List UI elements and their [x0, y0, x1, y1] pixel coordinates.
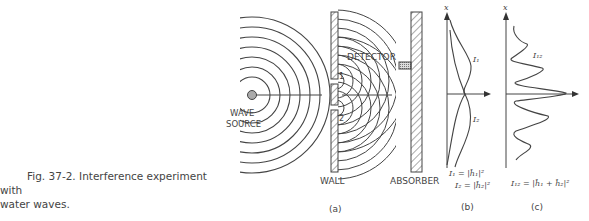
absorber — [411, 12, 422, 172]
intensity-axis-arrow-icon — [572, 91, 579, 97]
panel-c: x I₁₂ I₁₂ = |ĥ₁ + ĥ₂|² (c) — [503, 3, 579, 212]
panel-b-axis-label: x — [444, 3, 449, 12]
panel-c-label: (c) — [531, 202, 543, 212]
panel-b-label: (b) — [461, 202, 474, 212]
detector-label: DETECTOR — [347, 52, 396, 62]
wall-label: WALL — [320, 176, 345, 186]
intensity-axis-arrow-icon — [484, 91, 491, 97]
panel-a-label: (a) — [329, 204, 342, 214]
absorber-label: ABSORBER — [390, 176, 439, 186]
formula-i12: I₁₂ = |ĥ₁ + ĥ₂|² — [510, 179, 569, 188]
wall — [331, 12, 338, 172]
formula-i1: I₁ = |ĥ₁|² — [448, 169, 484, 178]
x-axis-arrow-icon — [503, 12, 509, 20]
wave-source-label-1: WAVE — [230, 108, 254, 118]
panel-c-axis-label: x — [503, 3, 508, 12]
wave-source-label-2: SOURCE — [226, 119, 261, 129]
panel-a: WAVE SOURCE 1 2 WALL DETECTOR ABSORBER (… — [174, 10, 439, 214]
panel-b: x I₁ I₂ I₁ = |ĥ₁|² I₂ = |ĥ₂|² (b) — [444, 3, 491, 212]
curve-i2-label: I₂ — [472, 115, 479, 124]
formula-i2: I₂ = |ĥ₂|² — [454, 181, 490, 190]
detector-icon — [399, 62, 411, 69]
interference-diagram: WAVE SOURCE 1 2 WALL DETECTOR ABSORBER (… — [0, 0, 589, 221]
wave-source-icon — [248, 91, 257, 100]
curve-i12-label: I₁₂ — [532, 51, 543, 60]
curve-i1-label: I₁ — [472, 55, 479, 64]
x-axis-arrow-icon — [444, 12, 450, 20]
